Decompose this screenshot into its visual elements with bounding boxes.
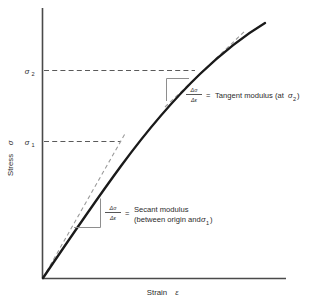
- y-tick-sigma1-subscript: 1: [31, 142, 34, 148]
- tangent-annotation-subscript: 2: [293, 96, 296, 102]
- secant-annotation-line2-pre: (between origin and: [134, 215, 201, 224]
- x-axis-label-symbol: ε: [175, 288, 179, 297]
- secant-fraction-denominator: Δε: [109, 215, 117, 221]
- x-axis-label: Strain ε: [147, 288, 179, 297]
- tangent-fraction-denominator: Δε: [190, 97, 198, 103]
- tangent-modulus-annotation: Δσ Δε = Tangent modulus (at σ 2 ): [186, 87, 300, 103]
- secant-fraction-numerator: Δσ: [109, 205, 118, 211]
- axes-group: [42, 8, 286, 279]
- tangent-annotation-text: Tangent modulus (at: [215, 91, 285, 100]
- secant-modulus-annotation: Δσ Δε = Secant modulus (between origin a…: [105, 205, 213, 226]
- tangent-fraction-numerator: Δσ: [190, 87, 199, 93]
- y-tick-sigma1-symbol: σ: [25, 138, 30, 147]
- y-axis-label: Stress σ: [6, 140, 15, 176]
- secant-annotation-line1: Secant modulus: [134, 205, 189, 214]
- secant-annotation-subscript: 1: [206, 220, 209, 226]
- y-axis-label-text: Stress: [6, 154, 15, 176]
- y-tick-sigma2: σ 2: [25, 67, 35, 78]
- construction-lines-group: [43, 30, 246, 278]
- secant-equals-sign: =: [125, 209, 130, 218]
- y-tick-sigma1: σ 1: [25, 138, 35, 149]
- y-tick-sigma2-symbol: σ: [25, 67, 30, 76]
- y-tick-sigma2-subscript: 2: [31, 71, 34, 77]
- x-axis-label-text: Strain: [147, 288, 167, 297]
- tangent-equals-sign: =: [206, 91, 211, 100]
- y-axis-label-symbol: σ: [6, 140, 15, 145]
- secant-annotation-line2-post: ): [210, 215, 213, 224]
- stress-strain-curve: [43, 23, 265, 278]
- stress-strain-figure: σ 2 σ 1 Stress σ Strain ε Δσ Δε = Tangen…: [0, 0, 310, 303]
- tangent-annotation-text-end: ): [297, 91, 300, 100]
- guide-lines-group: [44, 71, 195, 142]
